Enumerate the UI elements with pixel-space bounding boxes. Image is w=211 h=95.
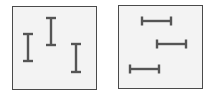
horizontal-i-beam-icon [157, 40, 186, 49]
vertical-i-beam-icon [23, 34, 33, 61]
horizontal-i-beam-icon [130, 65, 159, 74]
bar-glyphs-layer [0, 0, 211, 95]
vertical-i-beam-icon [71, 44, 81, 72]
horizontal-i-beam-icon [142, 17, 171, 26]
vertical-i-beam-icon [46, 18, 56, 45]
